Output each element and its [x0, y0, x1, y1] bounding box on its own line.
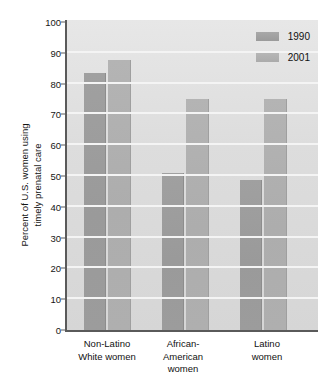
x-label-line-1: African-: [143, 338, 223, 351]
legend-label-1990: 1990: [288, 31, 310, 42]
gridline-20: [67, 266, 318, 268]
gridline-60: [67, 143, 318, 145]
gridline-40: [67, 205, 318, 207]
bar-african-american-1990: [162, 173, 184, 330]
bar-non-latino-white-1990: [84, 73, 106, 330]
y-tick-label-80: 80: [30, 78, 61, 89]
bar-african-american-2001: [186, 99, 209, 330]
bar-latino-2001: [264, 99, 287, 330]
x-axis-label-latino: Latino women: [227, 338, 307, 363]
y-tick-label-40: 40: [30, 201, 61, 212]
x-axis-label-african-american: African- American women: [143, 338, 223, 376]
bar-chart-figure: Percent of U.S. women using timely prena…: [0, 0, 326, 388]
y-tick-label-30: 30: [30, 232, 61, 243]
x-label-line-1: Latino: [227, 338, 307, 351]
legend-item-2001: 2001: [256, 49, 310, 66]
y-tick-label-20: 20: [30, 263, 61, 274]
y-tick-label-60: 60: [30, 140, 61, 151]
x-label-line-1: Non-Latino: [62, 338, 152, 351]
x-label-line-2: American: [143, 351, 223, 364]
y-tick-label-0: 0: [30, 325, 61, 336]
x-label-line-2: women: [227, 351, 307, 364]
legend-swatch-1990-icon: [256, 32, 279, 41]
gridline-70: [67, 112, 318, 114]
legend-label-2001: 2001: [288, 52, 310, 63]
bar-latino-1990: [240, 180, 262, 330]
legend: 1990 2001: [256, 28, 310, 70]
x-axis-line: [65, 330, 318, 332]
y-tick-label-90: 90: [30, 47, 61, 58]
y-tick-label-10: 10: [30, 294, 61, 305]
x-label-line-2: White women: [62, 351, 152, 364]
gridline-80: [67, 82, 318, 84]
legend-item-1990: 1990: [256, 28, 310, 45]
y-tick-label-70: 70: [30, 109, 61, 120]
y-tick-label-50: 50: [30, 171, 61, 182]
x-axis-label-non-latino-white: Non-Latino White women: [62, 338, 152, 363]
gridline-30: [67, 236, 318, 238]
legend-swatch-2001-icon: [256, 53, 279, 62]
y-tick-label-100: 100: [30, 17, 61, 28]
bar-non-latino-white-2001: [108, 60, 131, 330]
x-label-line-3: women: [143, 363, 223, 376]
plot-area: 1990 2001: [67, 20, 318, 330]
gridline-10: [67, 297, 318, 299]
gridline-50: [67, 174, 318, 176]
